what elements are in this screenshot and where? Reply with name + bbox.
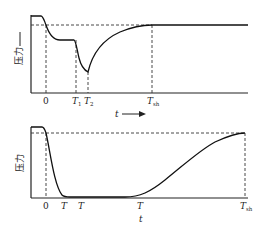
bottom-tick-0: 0: [43, 201, 49, 211]
top-tick-t1-sub: 1: [78, 101, 82, 107]
top-pressure-curve: [31, 16, 248, 72]
bottom-y-label: 压力: [14, 154, 25, 172]
bottom-tick-t-b: T: [78, 201, 85, 211]
top-tick-t2-sub: 2: [90, 101, 94, 107]
top-y-label: 压力: [13, 47, 24, 65]
top-chart: 压力 0 T 1 T 2 T sh t: [13, 15, 248, 119]
top-tick-tsh-sub: sh: [153, 101, 160, 107]
bottom-tick-tsh-sub: sh: [246, 206, 253, 212]
bottom-tick-t-c: T: [137, 201, 144, 211]
bottom-tick-t-a: T: [61, 201, 68, 211]
bottom-x-label: t: [139, 214, 143, 224]
bottom-chart: 压力 0 T T T T sh t: [14, 127, 253, 224]
top-tick-0: 0: [43, 96, 49, 106]
bottom-pressure-curve: [31, 127, 245, 197]
arrow-right-icon: [139, 111, 146, 117]
pressure-diagram: 压力 0 T 1 T 2 T sh t 压力 0: [0, 0, 268, 234]
top-x-label: t: [115, 109, 119, 119]
